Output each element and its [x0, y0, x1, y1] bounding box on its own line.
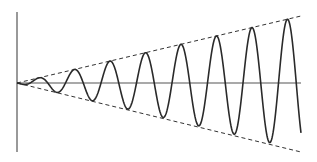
lower-envelope-dashed-line [17, 83, 301, 152]
upper-envelope-dashed-line [17, 16, 301, 83]
growing-oscillation-diagram [0, 0, 317, 162]
oscillation-curve [17, 19, 301, 142]
